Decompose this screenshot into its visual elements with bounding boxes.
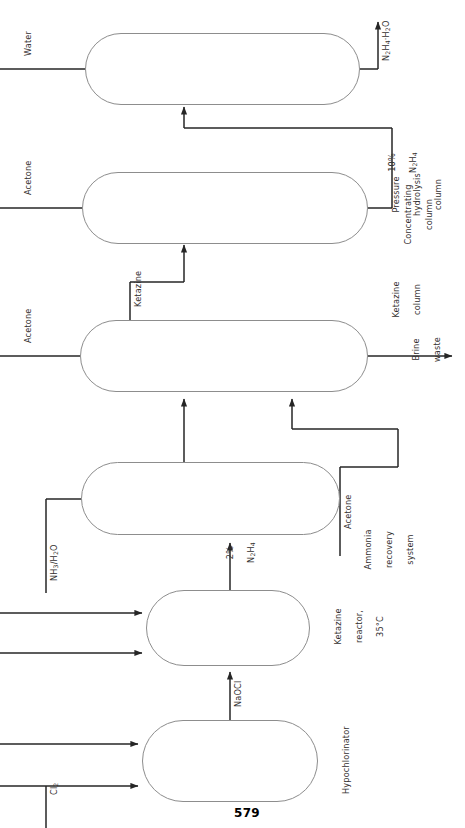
stream-text-hydrazine-hydrate: N2H4·H2O (381, 20, 391, 61)
stream-label-10pct-n2h4: 10% N2H4 (376, 138, 431, 198)
unit-label-hypochlorinator: Hypochlorinator (330, 705, 362, 805)
stream-text-cl2: Cl2 (49, 783, 59, 795)
stream-label-ketazine: Ketazine (122, 258, 154, 318)
stream-label-hydrazine-hydrate: N2H4·H2O (370, 0, 404, 72)
stream-label-acetone-hydrolysis: Acetone (12, 146, 44, 206)
stream-label-brine-waste: Brine waste (400, 325, 453, 385)
vessel-pressure-hydrolysis-column (82, 172, 368, 244)
page-number: 579 (234, 806, 260, 820)
vessel-hypochlorinator (142, 720, 318, 802)
unit-label-ketazine-reactor: Ketazine reactor, 35°C (322, 592, 396, 672)
stream-label-2pct-n2h4: 2% N2H4 (214, 528, 269, 588)
vessel-concentrating-column (85, 33, 360, 105)
process-flow-diagram: Concentrating column Pressure hydrolysis… (0, 0, 465, 828)
vessel-ketazine-reactor (146, 590, 310, 666)
stream-label-nh3-h2o: NH3/H2O (38, 522, 72, 592)
stream-text-nh3-h2o: NH3/H2O (49, 544, 59, 581)
stream-label-cl2: Cl2 (38, 766, 72, 806)
stream-text-2pct-n2h4: N2H4 (246, 542, 256, 563)
stream-label-naocl: NaOCl (222, 668, 254, 718)
stream-label-water: Water (12, 17, 44, 67)
vessel-ammonia-recovery-system (81, 462, 340, 535)
stream-label-acetone-ketazine-col: Acetone (12, 294, 44, 354)
stream-label-acetone-recycle: Acetone (332, 480, 364, 540)
stream-text-10pct-n2h4: N2H4 (408, 152, 418, 173)
vessel-ketazine-column (80, 320, 368, 392)
